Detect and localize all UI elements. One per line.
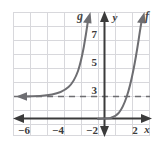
exponential-functions-graph: g f y x −6 −4 −2 2 3 5 7 — [0, 0, 156, 147]
x-tick-label: −4 — [52, 124, 64, 136]
curve-label-g: g — [76, 9, 83, 23]
x-tick-label: −2 — [86, 124, 98, 136]
x-tick-label: −6 — [18, 124, 30, 136]
curve-f-tail-path — [98, 118, 111, 119]
y-tick-label: 5 — [92, 56, 98, 68]
y-axis-label: y — [111, 11, 118, 23]
graph-canvas: g f y x −6 −4 −2 2 3 5 7 — [0, 0, 156, 147]
x-tick-label: 2 — [132, 124, 138, 136]
y-tick-label: 3 — [92, 84, 98, 96]
x-axis-label: x — [143, 123, 150, 135]
y-tick-label: 7 — [92, 28, 98, 40]
